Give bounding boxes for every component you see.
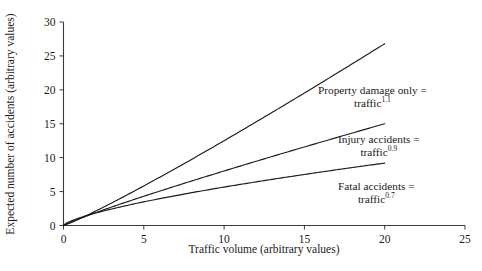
y-tick-label-20: 20 [44,84,56,96]
y-tick-label-15: 15 [44,118,56,130]
annotation-injury-exponent: 0.9 [388,145,398,154]
series-line-injury-accidents [64,124,385,226]
annotation-injury-accidents: Injury accidents = traffic0.9 [338,133,420,160]
y-tick-label-0: 0 [50,220,56,232]
annotation-property-line1: Property damage only = [318,84,427,96]
annotation-injury-base: traffic [360,146,387,158]
y-tick-label-10: 10 [44,152,56,164]
annotation-fatal-base: traffic [358,193,385,205]
annotation-fatal-accidents: Fatal accidents = traffic0.7 [338,180,415,207]
x-tick-label-25: 25 [459,233,471,245]
x-tick-label-0: 0 [61,233,67,245]
annotation-fatal-exponent: 0.7 [385,192,395,201]
y-axis-tick-labels: 051015202530 [44,16,56,232]
annotation-injury-line1: Injury accidents = [338,133,420,145]
data-series-group [64,44,385,226]
x-tick-label-20: 20 [379,233,391,245]
series-line-property-damage-only [64,44,385,226]
y-tick-label-25: 25 [44,50,56,62]
y-axis: 051015202530 [44,16,64,232]
accident-power-law-chart: 051015202530 0510152025 Traffic volume (… [0,0,482,271]
annotation-property-base: traffic [354,97,381,109]
y-tick-label-30: 30 [44,16,56,28]
annotation-property-exponent: 1.1 [381,96,391,105]
annotation-property-damage: Property damage only = traffic1.1 [318,84,427,111]
x-tick-label-5: 5 [141,233,147,245]
y-axis-title: Expected number of accidents (arbitrary … [4,13,17,234]
x-axis: 0510152025 [61,226,471,245]
series-line-fatal-accidents [64,163,385,225]
y-tick-label-5: 5 [50,186,56,198]
x-axis-ticks [64,226,466,230]
x-axis-title: Traffic volume (arbitrary values) [188,243,339,256]
y-axis-ticks [60,22,64,226]
annotation-fatal-line1: Fatal accidents = [338,180,415,192]
